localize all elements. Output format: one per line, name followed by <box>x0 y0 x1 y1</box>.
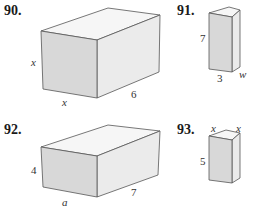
box-90-width-label: x <box>62 97 67 108</box>
box-91-width-label: 3 <box>217 73 223 84</box>
problem-number-91: 91. <box>177 4 195 18</box>
problem-number-93: 93. <box>177 123 195 137</box>
box-92-depth-label: 7 <box>131 187 137 198</box>
box-93 <box>209 130 240 183</box>
problem-number-90: 90. <box>4 4 22 18</box>
box-92-width-label: a <box>62 197 68 208</box>
box-91 <box>209 7 240 72</box>
box-90-front-face <box>41 31 97 98</box>
box-93-height-label: 5 <box>200 156 206 167</box>
box-93-depth-label: x <box>236 123 241 134</box>
problem-number-92: 92. <box>4 123 22 137</box>
box-93-front-face <box>209 136 232 183</box>
box-93-side-face <box>232 133 240 183</box>
box-92-height-label: 4 <box>31 165 37 176</box>
box-93-width-label: x <box>211 123 216 134</box>
box-90-height-label: x <box>31 57 36 68</box>
box-90 <box>41 8 160 98</box>
box-91-front-face <box>209 13 232 72</box>
box-91-height-label: 7 <box>200 33 206 44</box>
box-91-side-face <box>232 10 240 72</box>
figures-canvas <box>0 0 260 209</box>
box-92-front-face <box>41 147 97 197</box>
box-90-depth-label: 6 <box>131 89 137 100</box>
box-91-depth-label: w <box>239 69 246 80</box>
box-92 <box>41 125 160 197</box>
